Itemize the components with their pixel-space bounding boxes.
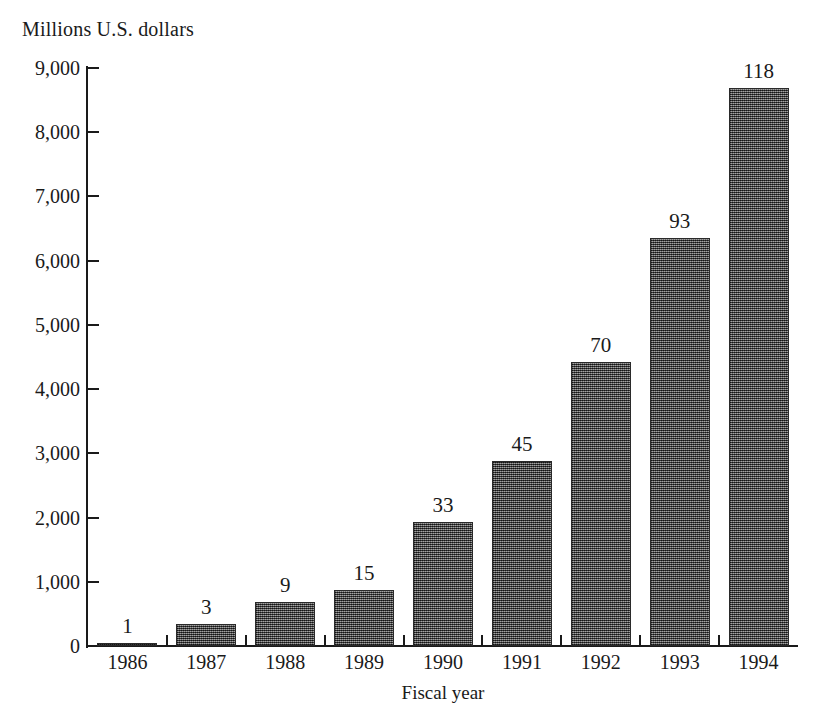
y-axis-tick-label: 1,000 [6, 572, 80, 592]
y-axis-tick-label: 2,000 [6, 508, 80, 528]
y-axis-tick-label: 6,000 [6, 251, 80, 271]
bar-value-label: 118 [719, 61, 799, 82]
bar [334, 590, 394, 646]
bar-value-label: 93 [640, 211, 720, 232]
bar [413, 522, 473, 646]
y-axis-tick-label: 9,000 [6, 58, 80, 78]
bar [729, 88, 789, 646]
bar [571, 362, 631, 646]
x-axis-category-label: 1994 [714, 652, 804, 672]
y-axis-tick-label: 0 [6, 636, 80, 656]
y-axis-tick-label: 8,000 [6, 122, 80, 142]
bar-value-label: 15 [324, 563, 404, 584]
y-axis-tick-label: 4,000 [6, 379, 80, 399]
bar-value-label: 9 [245, 575, 325, 596]
bar-chart: Millions U.S. dollars 01,0002,0003,0004,… [0, 0, 819, 710]
bar-value-label: 70 [561, 335, 641, 356]
x-axis-category-label: 1992 [556, 652, 646, 672]
y-axis-tick-label: 5,000 [6, 315, 80, 335]
bar-value-label: 1 [87, 616, 167, 637]
bar-value-label: 45 [482, 434, 562, 455]
x-axis-category-label: 1990 [398, 652, 488, 672]
y-axis-tick-labels: 01,0002,0003,0004,0005,0006,0007,0008,00… [0, 0, 80, 710]
x-axis-category-label: 1989 [319, 652, 409, 672]
x-axis-category-label: 1987 [161, 652, 251, 672]
bar-value-label: 3 [166, 597, 246, 618]
y-axis-tick-label: 3,000 [6, 443, 80, 463]
x-axis-category-label: 1988 [240, 652, 330, 672]
x-axis-category-label: 1991 [477, 652, 567, 672]
bar [492, 461, 552, 646]
x-axis-category-label: 1986 [82, 652, 172, 672]
bar [650, 238, 710, 646]
bar [176, 624, 236, 646]
bar [97, 643, 157, 646]
plot-area [88, 68, 798, 646]
bar-value-label: 33 [403, 495, 483, 516]
x-axis-title: Fiscal year [88, 683, 798, 702]
x-axis-category-label: 1993 [635, 652, 725, 672]
y-axis-tick-label: 7,000 [6, 186, 80, 206]
bar [255, 602, 315, 646]
